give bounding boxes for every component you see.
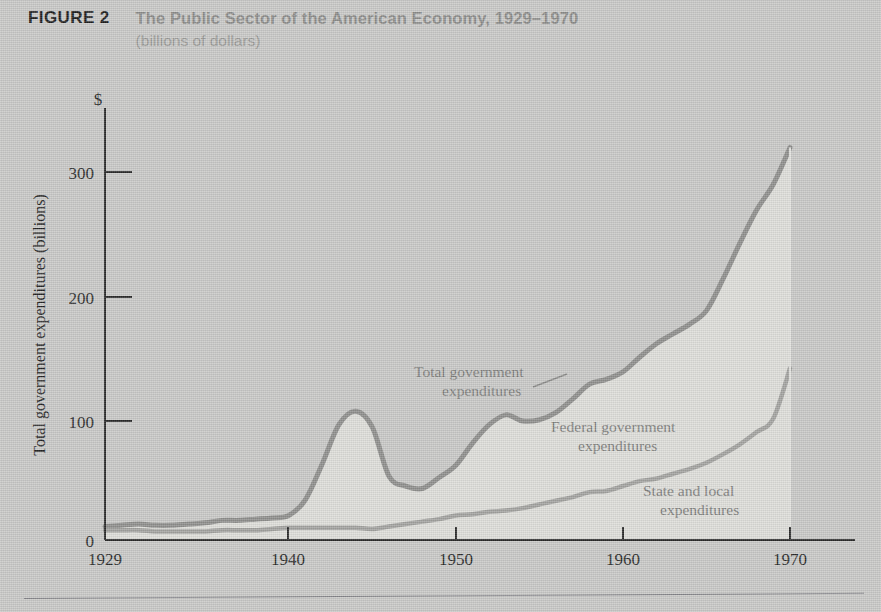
chart-subtitle: (billions of dollars) [136,30,579,51]
x-tick-label-1970: 1970 [773,550,807,569]
y-axis-title: Total government expenditures (billions) [31,194,49,455]
annotation-federal-line2: expenditures [578,437,657,454]
y-axis-currency-symbol: $ [94,90,103,109]
y-tick-label-0: 0 [86,532,95,551]
x-tick-label-1960: 1960 [606,550,640,569]
annotation-total-line1: Total government [414,363,524,380]
figure-number-label: FIGURE 2 [28,8,110,28]
x-tick-label-1929: 1929 [88,550,122,569]
annotation-state-line2: expenditures [660,501,739,518]
y-tick-label-300: 300 [69,164,95,183]
annotation-state-line1: State and local [643,482,734,499]
chart-plot-area: 300 200 100 0 $ 1929 1940 1950 1960 1970… [0,0,881,612]
chart-title: The Public Sector of the American Econom… [136,8,579,29]
y-tick-label-100: 100 [69,413,95,432]
annotation-total-line2: expenditures [442,382,521,399]
annotation-federal-line1: Federal government [551,418,676,435]
title-block: The Public Sector of the American Econom… [136,8,579,51]
x-tick-label-1950: 1950 [439,550,473,569]
x-tick-label-1940: 1940 [271,550,305,569]
figure-header: FIGURE 2 The Public Sector of the Americ… [28,8,848,51]
annotation-total-leader-line [533,374,567,387]
y-tick-label-200: 200 [69,289,95,308]
